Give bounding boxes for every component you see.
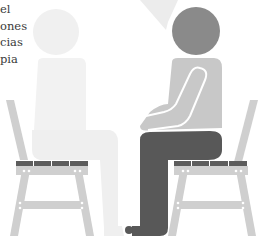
speech-bubble-tail-icon	[140, 0, 178, 30]
conversation-illustration	[0, 0, 265, 241]
shoe-icon	[125, 226, 133, 234]
illustration-canvas: el ones cias pia	[0, 0, 265, 241]
